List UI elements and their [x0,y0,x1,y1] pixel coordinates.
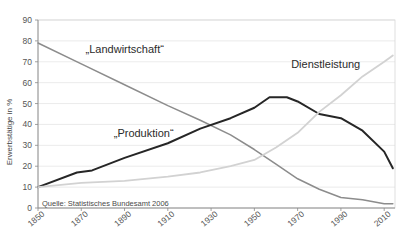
employment-by-sector-line-chart: 0102030405060708090 18501870189019101930… [0,0,409,251]
y-tick-label-70: 70 [23,57,33,67]
source-note: Quelle: Statistisches Bundesamt 2006 [42,199,169,208]
series-label-1: „Produktion“ [114,127,174,139]
y-tick-label-10: 10 [23,182,33,192]
y-axis-title: Erwerbstätige in % [5,99,14,166]
series-label-0: „Landwirtschaft“ [86,43,165,55]
y-tick-label-80: 80 [23,36,33,46]
chart-container: 0102030405060708090 18501870189019101930… [0,0,409,251]
chart-background [0,0,409,251]
y-tick-label-50: 50 [23,99,33,109]
y-tick-label-20: 20 [23,161,33,171]
y-tick-label-0: 0 [27,203,32,213]
series-label-2: Dienstleistung [291,58,360,70]
y-tick-label-90: 90 [23,15,33,25]
y-tick-label-30: 30 [23,140,33,150]
y-tick-label-60: 60 [23,78,33,88]
y-tick-label-40: 40 [23,119,33,129]
